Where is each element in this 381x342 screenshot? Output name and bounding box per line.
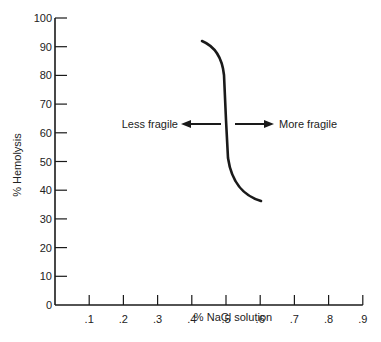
- hemolysis-chart: 0102030405060708090100 .1.2.3.4.5.6.7.8.…: [0, 0, 381, 342]
- y-tick-label: 40: [40, 184, 52, 196]
- more-fragile-label: More fragile: [279, 118, 337, 130]
- x-tick-label: .7: [290, 313, 299, 325]
- y-tick-label: 0: [46, 299, 52, 311]
- x-tick-label: .1: [85, 313, 94, 325]
- less-fragile-label: Less fragile: [122, 118, 178, 130]
- y-axis: 0102030405060708090100: [34, 12, 67, 311]
- y-tick-label: 90: [40, 41, 52, 53]
- fragility-annotations: Less fragile More fragile: [122, 118, 337, 130]
- left-arrow-icon: [181, 120, 221, 128]
- y-tick-label: 10: [40, 270, 52, 282]
- y-tick-label: 50: [40, 156, 52, 168]
- x-axis-title: % NaCl solution: [194, 311, 272, 323]
- y-tick-label: 80: [40, 69, 52, 81]
- curve-line: [202, 41, 261, 201]
- right-arrow-icon: [235, 120, 274, 128]
- y-tick-label: 70: [40, 98, 52, 110]
- y-tick-label: 30: [40, 213, 52, 225]
- y-tick-label: 100: [34, 12, 52, 24]
- x-tick-label: .9: [358, 313, 367, 325]
- y-tick-label: 60: [40, 127, 52, 139]
- x-tick-label: .3: [153, 313, 162, 325]
- x-tick-label: .2: [119, 313, 128, 325]
- y-tick-label: 20: [40, 242, 52, 254]
- x-tick-label: .8: [324, 313, 333, 325]
- fragility-curve: [202, 41, 261, 201]
- y-axis-title: % Hemolysis: [11, 133, 23, 197]
